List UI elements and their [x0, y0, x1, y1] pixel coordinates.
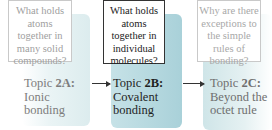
- topic-code: 2B:: [144, 76, 163, 90]
- topic-code: 2C:: [241, 76, 260, 90]
- topic-2b-question: What holds atoms together in individual …: [103, 0, 165, 64]
- topic-prefix: Topic: [113, 76, 144, 90]
- topic-code: 2A:: [55, 76, 74, 90]
- topic-2a-label: Topic 2A: Ionic bonding: [24, 77, 75, 118]
- arrow-right-icon: [92, 83, 110, 84]
- topic-title: Covalent bonding: [113, 91, 165, 118]
- topic-2b-label: Topic 2B: Covalent bonding: [113, 77, 165, 118]
- topic-title: Ionic bonding: [24, 91, 70, 118]
- topic-2c-question: Why are there exceptions to the simple r…: [197, 0, 261, 62]
- topic-prefix: Topic: [24, 76, 55, 90]
- topic-2c-label: Topic 2C: Beyond the octet rule: [210, 77, 272, 118]
- topic-2a-question: What holds atoms together in many solid …: [8, 0, 72, 62]
- topic-prefix: Topic: [210, 76, 241, 90]
- arrow-right-icon: [183, 83, 204, 84]
- topic-title: Beyond the octet rule: [210, 91, 272, 118]
